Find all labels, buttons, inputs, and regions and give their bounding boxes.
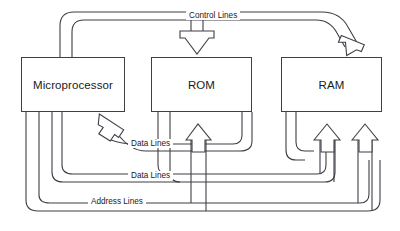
unit-ram[interactable]: RAM	[281, 57, 382, 112]
data-arrowhead-ram	[314, 124, 340, 152]
unit-microprocessor[interactable]: Microprocessor	[21, 57, 125, 112]
ram-drop-line-right	[296, 112, 314, 151]
control-arrowhead-rom	[180, 31, 214, 54]
unit-ram-label: RAM	[319, 79, 345, 91]
unit-rom[interactable]: ROM	[151, 57, 252, 112]
bus-label-control-lines: Control Lines	[186, 11, 240, 20]
unit-rom-label: ROM	[188, 79, 215, 91]
address-arrowhead-ram	[352, 124, 378, 152]
bus-architecture-diagram: Microprocessor ROM RAM Control Lines Dat…	[0, 0, 400, 231]
address-arrowhead-rom	[186, 124, 211, 152]
unit-microprocessor-label: Microprocessor	[33, 79, 113, 91]
control-arrowhead-ram	[337, 35, 365, 57]
bus-label-address-lines: Address Lines	[88, 197, 146, 206]
bus-label-data-lines-in: Data Lines	[128, 139, 173, 148]
bus-label-data-lines-out: Data Lines	[128, 171, 173, 180]
bus-wiring	[0, 0, 400, 231]
